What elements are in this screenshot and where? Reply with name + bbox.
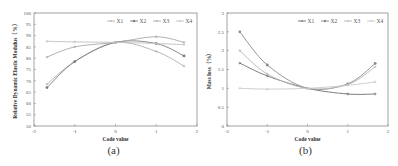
legend-label: X2 bbox=[331, 18, 338, 24]
legend-item-x1: X1 bbox=[107, 18, 123, 24]
x-axis-label: Code value bbox=[102, 136, 129, 142]
data-point-marker bbox=[266, 88, 269, 91]
legend-label: X4 bbox=[377, 18, 384, 24]
legend-label: X1 bbox=[308, 18, 315, 24]
figure: 50556065707580859095100-2-1012Code value… bbox=[0, 0, 398, 166]
legend-item-x3: X3 bbox=[153, 18, 169, 24]
legend-label: X4 bbox=[186, 18, 193, 24]
legend-label: X2 bbox=[140, 18, 147, 24]
y-tick-label: 2 bbox=[222, 48, 225, 53]
legend-item-x4: X4 bbox=[176, 18, 192, 24]
data-point-marker bbox=[46, 56, 49, 59]
panel-label: (a) bbox=[107, 144, 120, 157]
panel-label: (b) bbox=[299, 144, 312, 157]
x-tick-label: 0 bbox=[114, 129, 117, 134]
data-point-marker bbox=[155, 50, 158, 53]
data-point-marker bbox=[46, 86, 49, 89]
series-x3 bbox=[238, 49, 376, 89]
y-tick-label: 80 bbox=[26, 56, 32, 61]
data-point-marker bbox=[183, 43, 186, 46]
data-point-marker bbox=[238, 30, 241, 33]
series-x4 bbox=[46, 40, 186, 46]
x-tick-label: 2 bbox=[196, 129, 199, 134]
series-x1 bbox=[46, 41, 186, 85]
chart-canvas: 50556065707580859095100-2-1012Code value… bbox=[0, 0, 398, 166]
x-tick-label: -2 bbox=[225, 129, 230, 134]
series-x2 bbox=[46, 41, 186, 89]
legend-item-x2: X2 bbox=[130, 18, 146, 24]
y-tick-label: 85 bbox=[26, 45, 32, 50]
legend-item-x4: X4 bbox=[367, 18, 383, 24]
y-tick-label: 1.5 bbox=[218, 67, 225, 72]
y-tick-label: 65 bbox=[26, 90, 32, 95]
y-tick-label: 55 bbox=[26, 112, 32, 117]
x-tick-label: 1 bbox=[347, 129, 350, 134]
data-point-marker bbox=[73, 41, 76, 44]
x-axis-label: Code value bbox=[294, 136, 321, 142]
y-tick-label: 3 bbox=[222, 11, 225, 16]
x-tick-label: 2 bbox=[387, 129, 390, 134]
plot-frame bbox=[227, 13, 388, 126]
y-axis-label: Mass loss（%） bbox=[205, 50, 212, 90]
data-point-marker bbox=[374, 81, 377, 84]
data-point-marker bbox=[73, 46, 76, 49]
legend-label: X3 bbox=[354, 18, 361, 24]
legend-label: X1 bbox=[117, 18, 124, 24]
data-point-marker bbox=[46, 40, 49, 43]
data-point-marker bbox=[374, 93, 377, 96]
y-tick-label: 100 bbox=[24, 11, 32, 16]
data-point-marker bbox=[266, 64, 269, 67]
data-point-marker bbox=[183, 55, 186, 58]
data-point-marker bbox=[346, 93, 349, 96]
data-point-marker bbox=[155, 35, 158, 38]
chart-panel-a: 50556065707580859095100-2-1012Code value… bbox=[11, 11, 199, 157]
legend-item-x1: X1 bbox=[298, 18, 314, 24]
legend-item-x3: X3 bbox=[344, 18, 360, 24]
y-tick-label: 95 bbox=[26, 22, 32, 27]
x-tick-label: 1 bbox=[155, 129, 158, 134]
legend-item-x2: X2 bbox=[321, 18, 337, 24]
y-axis-label: Relative Dynamic Elastic Modulus（%） bbox=[11, 20, 18, 119]
series-x4 bbox=[238, 81, 376, 91]
data-point-marker bbox=[374, 62, 377, 65]
chart-panel-b: 00.511.522.53-2-1012Code valueMass loss（… bbox=[205, 11, 390, 157]
data-point-marker bbox=[73, 60, 76, 63]
plot-frame bbox=[34, 13, 197, 126]
data-point-marker bbox=[238, 87, 241, 90]
data-point-marker bbox=[183, 41, 186, 44]
y-tick-label: 60 bbox=[26, 101, 32, 106]
y-tick-label: 90 bbox=[26, 33, 32, 38]
x-tick-label: -2 bbox=[32, 129, 37, 134]
x-tick-label: 0 bbox=[306, 129, 309, 134]
y-tick-label: 0 bbox=[222, 124, 225, 129]
y-tick-label: 1 bbox=[222, 86, 225, 91]
y-tick-label: 75 bbox=[26, 67, 32, 72]
legend-label: X3 bbox=[163, 18, 170, 24]
x-tick-label: -1 bbox=[73, 129, 78, 134]
y-tick-label: 2.5 bbox=[218, 30, 225, 35]
series-x1 bbox=[238, 62, 376, 95]
y-tick-label: 50 bbox=[26, 124, 32, 129]
y-tick-label: 0.5 bbox=[218, 105, 225, 110]
x-tick-label: -1 bbox=[265, 129, 270, 134]
y-tick-label: 70 bbox=[26, 79, 32, 84]
